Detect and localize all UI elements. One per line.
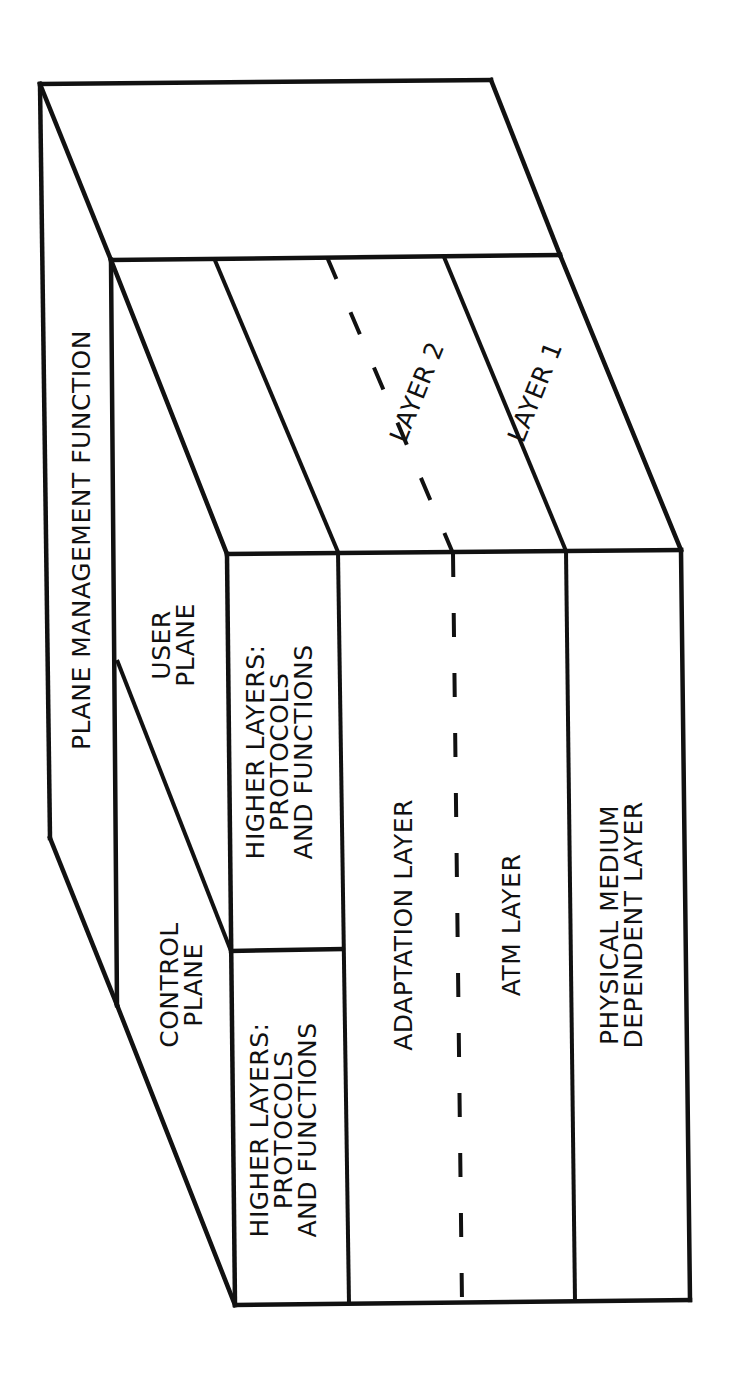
control-higher-line3: AND FUNCTIONS	[293, 1022, 322, 1237]
management-function-label: PLANE MANAGEMENT FUNCTION	[67, 330, 96, 750]
atm-layer-label: ATM LAYER	[497, 854, 526, 997]
user-higher-layers-label: HIGHER LAYERS: PROTOCOLS AND FUNCTIONS	[241, 644, 318, 859]
adaptation-layer-label: ADAPTATION LAYER	[389, 799, 418, 1051]
layer2-label: LAYER 2	[384, 337, 450, 446]
physical-layer-label: PHYSICAL MEDIUM DEPENDENT LAYER	[595, 801, 648, 1048]
user-plane-line2: PLANE	[171, 603, 200, 687]
top-face	[40, 80, 560, 260]
control-plane-label: CONTROL PLANE	[155, 922, 208, 1048]
physical-line2: DEPENDENT LAYER	[619, 801, 648, 1048]
control-plane-line2: PLANE	[179, 943, 208, 1027]
user-plane-label: USER PLANE	[147, 603, 200, 687]
user-higher-line3: AND FUNCTIONS	[289, 644, 318, 859]
control-higher-layers-label: HIGHER LAYERS: PROTOCOLS AND FUNCTIONS	[245, 1022, 322, 1237]
layer1-label: LAYER 1	[502, 337, 568, 446]
atm-protocol-reference-model-diagram: PLANE MANAGEMENT FUNCTION USER PLANE CON…	[0, 0, 733, 1386]
